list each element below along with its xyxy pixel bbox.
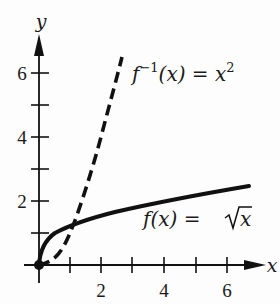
x-tick-label-6: 6 <box>222 280 232 301</box>
x-axis-label: x <box>267 254 278 276</box>
origin-point <box>34 260 44 270</box>
y-tick-label-4: 4 <box>17 127 27 148</box>
x-axis-arrow-icon <box>244 260 266 270</box>
plot-area: 2 4 6 2 4 6 y x f−1(x) = x2 f(x) = x <box>0 0 280 304</box>
y-tick-label-6: 6 <box>17 63 27 84</box>
y-axis-arrow-icon <box>34 34 44 56</box>
x-tick-label-2: 2 <box>96 280 106 301</box>
y-tick-label-2: 2 <box>17 191 27 212</box>
y-ticks <box>31 73 49 233</box>
sqrt-argument: x <box>240 207 251 231</box>
sqrt-function-label: f(x) = <box>141 207 200 231</box>
chart: 2 4 6 2 4 6 y x f−1(x) = x2 f(x) = x <box>0 0 280 304</box>
inverse-function-label: f−1(x) = x2 <box>130 60 235 86</box>
x-tick-label-4: 4 <box>159 280 169 301</box>
y-axis-label: y <box>35 10 47 32</box>
